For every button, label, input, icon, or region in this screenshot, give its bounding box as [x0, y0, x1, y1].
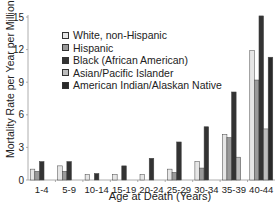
y-tick-label: 9 — [18, 77, 24, 88]
bar — [172, 172, 177, 180]
mortality-bar-chart: 036912151-45-910-1415-1920-2425-2930-343… — [0, 0, 277, 211]
legend-item-hispanic: Hispanic — [62, 42, 222, 55]
bar — [199, 168, 204, 180]
bar — [122, 166, 127, 180]
x-tick-label: 1-4 — [35, 184, 49, 195]
bar — [250, 51, 255, 180]
bar — [204, 127, 209, 180]
x-tick-label: 40-44 — [249, 184, 273, 195]
legend-label: Hispanic — [73, 42, 113, 55]
x-axis-label: Age at Death (Years) — [100, 190, 220, 202]
legend-swatch-icon — [62, 69, 69, 76]
bar — [177, 142, 182, 180]
x-tick-label: 35-39 — [222, 184, 246, 195]
y-tick-label: 3 — [18, 142, 24, 153]
bar — [35, 171, 40, 180]
legend-label: Black (African American) — [73, 54, 188, 67]
legend-swatch-icon — [62, 82, 69, 89]
legend-item-black: Black (African American) — [62, 54, 222, 67]
bar — [268, 57, 273, 180]
bar — [58, 166, 63, 180]
bar — [232, 92, 237, 180]
bar — [259, 16, 264, 180]
bar — [62, 171, 67, 180]
legend-item-american-indian: American Indian/Alaskan Native — [62, 79, 222, 92]
legend: White, non-Hispanic Hispanic Black (Afri… — [62, 29, 222, 92]
x-tick-label: 5-9 — [62, 184, 76, 195]
bar — [30, 169, 35, 180]
bar — [254, 80, 259, 180]
legend-label: Asian/Pacific Islander — [73, 67, 173, 80]
legend-swatch-icon — [62, 32, 69, 39]
bar — [222, 134, 227, 180]
bar — [140, 175, 145, 180]
y-axis-label: Mortality Rate per Year per Million — [4, 32, 18, 158]
bar — [195, 162, 200, 180]
bar — [264, 129, 269, 180]
y-tick-label: 6 — [18, 109, 24, 120]
legend-item-white: White, non-Hispanic — [62, 29, 222, 42]
legend-item-asian: Asian/Pacific Islander — [62, 67, 222, 80]
bar — [94, 173, 99, 180]
legend-label: American Indian/Alaskan Native — [73, 79, 222, 92]
bar — [39, 162, 44, 180]
y-tick-label: 0 — [18, 175, 24, 186]
bar — [67, 162, 72, 180]
legend-label: White, non-Hispanic — [73, 29, 167, 42]
bar — [113, 175, 118, 180]
bar — [167, 169, 172, 180]
legend-swatch-icon — [62, 57, 69, 64]
bar — [227, 138, 232, 180]
bar — [149, 158, 154, 180]
bar — [236, 157, 241, 180]
bar — [85, 175, 90, 180]
legend-swatch-icon — [62, 44, 69, 51]
